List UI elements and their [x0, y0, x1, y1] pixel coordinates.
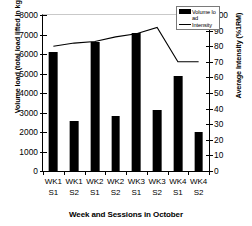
y-tick-label-right: 0 [214, 167, 219, 175]
y-tick-label-left: 0 [33, 167, 38, 175]
y-tick-label-left: 1000 [19, 147, 38, 155]
y-tick-right [209, 109, 213, 110]
y-tick-label-right: 80 [214, 42, 223, 50]
x-tick-label: WK1S2 [65, 177, 82, 199]
x-tick-label-line: WK3 [128, 177, 145, 188]
x-tick-label-line: S1 [169, 188, 186, 199]
x-tick [105, 171, 106, 175]
bar-swatch-icon [179, 9, 191, 14]
legend-label-volume-load: Volume load [192, 9, 218, 22]
x-axis-title: Week and Sessions in October [0, 211, 252, 219]
x-tick-label-line: S1 [128, 188, 145, 199]
plot-area: 010002000300040005000600070008000 010203… [42, 14, 210, 172]
y-tick-label-right: 30 [214, 120, 223, 128]
y-tick-right [209, 62, 213, 63]
x-tick-label-line: WK2 [86, 177, 103, 188]
x-tick-label: WK1S1 [45, 177, 62, 199]
x-tick-label-line: WK1 [45, 177, 62, 188]
y-tick-label-left: 5000 [19, 69, 38, 77]
x-tick-label-line: S1 [45, 188, 62, 199]
legend-item-volume-load: Volume load [179, 9, 218, 22]
y-tick-label-left: 4000 [19, 89, 38, 97]
x-tick-label: WK3S1 [128, 177, 145, 199]
y-tick-label-left: 6000 [19, 50, 38, 58]
y-tick-label-right: 40 [214, 104, 223, 112]
y-tick-label-left: 7000 [19, 30, 38, 38]
y-tick-right [209, 46, 213, 47]
x-tick [85, 171, 86, 175]
legend-label-intensity: Intensity [192, 22, 218, 28]
x-tick-label-line: S1 [86, 188, 103, 199]
x-tick [64, 171, 65, 175]
x-tick [209, 171, 210, 175]
y-tick-label-left: 2000 [19, 128, 38, 136]
x-tick-label-line: S2 [65, 188, 82, 199]
x-tick-label: WK2S1 [86, 177, 103, 199]
x-tick-label-line: WK1 [65, 177, 82, 188]
y-axis-right-title: Average Intensity (%1RM) [235, 0, 242, 126]
x-tick [168, 171, 169, 175]
legend-item-intensity: Intensity [179, 22, 218, 28]
line-series-intensity [43, 15, 209, 171]
x-tick-label-line: WK4 [169, 177, 186, 188]
x-tick [126, 171, 127, 175]
x-tick-label-line: S2 [148, 188, 165, 199]
y-tick-right [209, 93, 213, 94]
y-tick-label-right: 50 [214, 89, 223, 97]
x-tick-label-line: S2 [190, 188, 207, 199]
y-tick-right [209, 124, 213, 125]
x-tick-label-line: S2 [107, 188, 124, 199]
y-tick-label-left: 3000 [19, 108, 38, 116]
x-tick-label-line: WK3 [148, 177, 165, 188]
x-tick [147, 171, 148, 175]
y-tick-label-right: 70 [214, 58, 223, 66]
x-tick-label: WK3S2 [148, 177, 165, 199]
y-tick-label-right: 10 [214, 151, 223, 159]
y-tick-right [209, 77, 213, 78]
intensity-line-path [53, 27, 198, 61]
chart-figure: Volume load (total load lifted in kg) Av… [0, 0, 252, 226]
x-tick [188, 171, 189, 175]
chart-legend: Volume load Intensity [176, 6, 220, 30]
y-tick-label-left: 8000 [19, 11, 38, 19]
y-tick-right [209, 155, 213, 156]
y-tick-label-right: 60 [214, 73, 223, 81]
x-tick-label: WK4S1 [169, 177, 186, 199]
y-tick-label-right: 20 [214, 136, 223, 144]
y-tick-right [209, 31, 213, 32]
x-tick [43, 171, 44, 175]
x-tick-label-line: WK4 [190, 177, 207, 188]
x-tick-label: WK2S2 [107, 177, 124, 199]
y-tick-right [209, 140, 213, 141]
line-swatch-icon [179, 22, 191, 27]
x-tick-label: WK4S2 [190, 177, 207, 199]
x-tick-label-line: WK2 [107, 177, 124, 188]
